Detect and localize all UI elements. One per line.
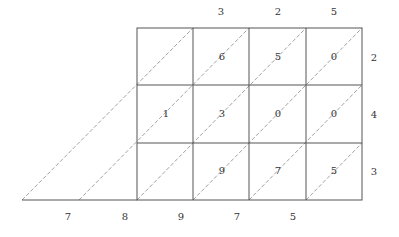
right-digit: 4 bbox=[371, 109, 377, 120]
bottom-digit: 8 bbox=[122, 211, 128, 222]
bottom-digit: 7 bbox=[234, 211, 240, 222]
cell-digit: 0 bbox=[275, 108, 281, 119]
cell-digit: 0 bbox=[331, 51, 337, 62]
cell-digit: 1 bbox=[163, 108, 169, 119]
cell-digit: 3 bbox=[219, 108, 225, 119]
right-digit: 2 bbox=[371, 52, 377, 63]
cell-digit: 0 bbox=[331, 108, 337, 119]
diagonal-lines bbox=[22, 28, 362, 200]
lattice-diagram: 3 2 5 2 4 3 7 8 9 7 5 6 5 0 1 3 0 0 9 7 … bbox=[0, 0, 399, 237]
bottom-digit: 9 bbox=[178, 211, 184, 222]
right-digit: 3 bbox=[371, 166, 377, 177]
bottom-digit: 7 bbox=[65, 211, 71, 222]
bottom-digit: 5 bbox=[290, 211, 296, 222]
top-digit: 2 bbox=[275, 6, 281, 17]
top-digit: 3 bbox=[218, 6, 224, 17]
cell-digit: 5 bbox=[275, 51, 281, 62]
cell-digit: 9 bbox=[219, 165, 225, 176]
cell-digit: 7 bbox=[275, 165, 281, 176]
cell-digit: 5 bbox=[331, 165, 337, 176]
top-digit: 5 bbox=[331, 6, 337, 17]
grid bbox=[22, 28, 362, 200]
cell-digit: 6 bbox=[219, 51, 225, 62]
